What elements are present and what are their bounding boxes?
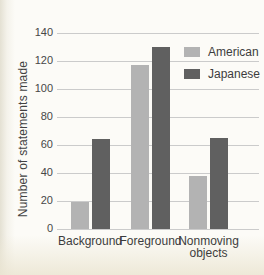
bar-american-foreground (131, 65, 149, 229)
y-tick-label-20: 20 (9, 195, 53, 206)
gridline-140 (57, 33, 259, 34)
bar-japanese-background (92, 139, 110, 229)
legend-item-american: American (184, 45, 260, 59)
bar-american-background (71, 202, 89, 229)
legend-label-american: American (208, 45, 259, 59)
legend-label-japanese: Japanese (208, 67, 260, 81)
legend-swatch-japanese (184, 69, 200, 79)
y-tick-label-0: 0 (9, 223, 53, 234)
legend-swatch-american (184, 47, 200, 57)
y-tick-label-120: 120 (9, 55, 53, 66)
y-tick-label-80: 80 (9, 111, 53, 122)
y-tick-label-140: 140 (9, 27, 53, 38)
y-tick-label-40: 40 (9, 167, 53, 178)
legend: AmericanJapanese (184, 45, 260, 89)
chart: Number of statements made 02040608010012… (0, 0, 264, 275)
x-category-label-nonmoving-objects: Nonmoving objects (163, 235, 255, 259)
legend-item-japanese: Japanese (184, 67, 260, 81)
y-tick-label-100: 100 (9, 83, 53, 94)
x-axis-labels: BackgroundForegroundNonmoving objects (57, 235, 259, 265)
bar-japanese-nonmoving-objects (210, 138, 228, 229)
bar-american-nonmoving-objects (189, 176, 207, 229)
bar-japanese-foreground (152, 47, 170, 229)
y-tick-label-60: 60 (9, 139, 53, 150)
